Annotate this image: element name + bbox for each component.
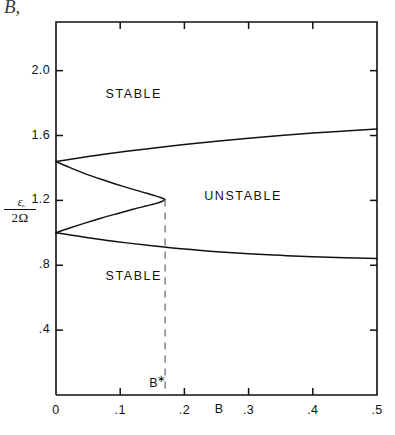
y-axis-denominator: 2ˆΩ [3,210,37,224]
x-axis-label: B [215,402,223,416]
plot-frame [56,22,377,395]
region-label-stable-upper: STABLE [105,87,162,101]
x-tick-label: .1 [105,403,135,417]
x-tick-label: 0 [41,403,71,417]
y-tick-label: .8 [16,257,50,271]
y-tick-label: 1.6 [16,128,50,142]
x-tick-label: .2 [169,403,199,417]
region-label-unstable: UNSTABLE [204,189,282,203]
y-tick-label: .4 [16,322,50,336]
x-tick-label: .4 [298,403,328,417]
y-axis-denom-number: 2 [11,210,18,225]
plot-area [0,0,395,435]
omega-hat-group: ˆΩ [18,211,28,224]
curve-nose-lower [56,200,165,233]
y-tick-label: 2.0 [16,63,50,77]
curve-lower-branch [56,233,377,259]
x-tick-label: .5 [362,403,392,417]
x-tick-label: .3 [234,403,264,417]
y-tick-label: 1.2 [16,192,50,206]
chart-svg [0,0,395,435]
figure-root: B, ε 2ˆΩ STABLE UNSTABLE STABLE B∗ B .4.… [0,0,395,435]
curve-nose-upper [56,161,165,199]
hat-accent-icon: ˆ [22,205,26,215]
critical-point-label: B∗ [149,373,165,390]
curve-upper-branch [56,129,377,161]
critical-point-star-icon: ∗ [157,373,165,384]
region-label-stable-lower: STABLE [105,269,162,283]
